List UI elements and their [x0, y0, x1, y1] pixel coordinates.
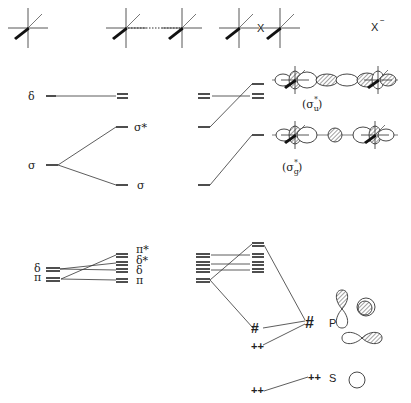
delta-levels-left: δ: [28, 90, 128, 103]
pi-bonding-label: π: [136, 274, 143, 287]
delta-label: δ: [28, 90, 35, 103]
sigma-g-star-label: (σg*): [282, 158, 302, 176]
bridged-lower-levels: # ++ ++: [196, 243, 308, 396]
halide-s-level: ++ S: [308, 371, 336, 384]
pz-orbital-picture: [336, 290, 347, 328]
delta-pi-split-left: δ π π* δ* δ π: [34, 243, 149, 287]
sigma-u-star-orbital: (σu*): [272, 66, 398, 113]
halide-p-level: # P: [305, 314, 336, 331]
sigma-bonding-label: σ: [137, 179, 145, 192]
bonding-p-electrons: #: [251, 320, 259, 336]
s-orbital-picture: [349, 372, 365, 388]
p-label: P: [329, 317, 336, 329]
anion-charge: −: [380, 16, 385, 25]
dimetal-fragment: [106, 8, 202, 48]
anion-label: X: [371, 21, 379, 33]
halide-anion-header: X −: [371, 16, 385, 33]
delta-pi-pi-label: π: [34, 271, 41, 284]
sigma-star-label: σ*: [134, 121, 148, 134]
sigma-split-left: σ σ* σ: [28, 121, 148, 192]
single-metal-fragment: [8, 8, 48, 48]
s-derived-electrons: ++: [251, 384, 264, 396]
s-label: S: [329, 372, 336, 384]
bridged-upper-levels: [198, 84, 264, 185]
sigma-u-star-label: (σu*): [302, 95, 322, 113]
py-orbital-picture: [357, 298, 375, 316]
mo-diagram: X X − δ σ σ* σ: [0, 0, 411, 403]
bridged-fragment: X: [219, 8, 300, 48]
sigma-g-star-orbital: (σg*): [272, 121, 398, 176]
p-level-electrons: #: [305, 314, 314, 331]
s-level-electrons: ++: [308, 371, 321, 383]
nonbonding-p-electrons: ++: [251, 340, 264, 352]
px-orbital-picture: [342, 332, 382, 343]
sigma-label: σ: [28, 159, 36, 172]
